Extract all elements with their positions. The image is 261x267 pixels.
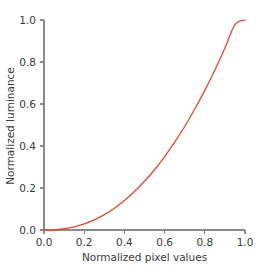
y-tick-label: 0.8 <box>19 56 36 68</box>
y-tick-label: 0.0 <box>19 224 36 236</box>
y-tick-label: 0.6 <box>19 98 36 110</box>
x-tick-label: 0.6 <box>156 236 173 248</box>
y-tick-label: 0.4 <box>19 140 36 152</box>
y-tick-label: 1.0 <box>19 14 36 26</box>
gamma-curve-chart: 0.00.20.40.60.81.0 0.00.20.40.60.81.0 No… <box>0 0 261 267</box>
x-tick-label: 0.8 <box>196 236 213 248</box>
x-tick-label: 0.4 <box>116 236 133 248</box>
y-axis-title: Normalized luminance <box>4 67 16 185</box>
x-tick-label: 0.2 <box>76 236 93 248</box>
x-tick-label: 0.0 <box>36 236 53 248</box>
chart-figure: 0.00.20.40.60.81.0 0.00.20.40.60.81.0 No… <box>0 0 261 267</box>
x-tick-label: 1.0 <box>237 236 254 248</box>
chart-background <box>0 0 261 267</box>
x-axis-title: Normalized pixel values <box>82 251 207 263</box>
y-tick-label: 0.2 <box>19 182 36 194</box>
